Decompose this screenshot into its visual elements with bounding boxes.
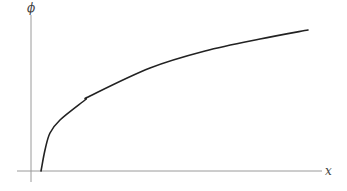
x-axis-label: x <box>325 164 332 178</box>
y-axis-label: ϕ <box>27 1 35 15</box>
phi-curve <box>41 30 308 171</box>
chart: ϕ x <box>0 0 347 191</box>
